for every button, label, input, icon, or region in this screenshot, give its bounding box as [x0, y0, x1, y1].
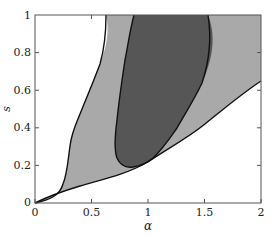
- x-tick-label: 1: [145, 206, 152, 219]
- x-axis-label: α: [144, 219, 152, 233]
- y-tick-label: 0.4: [14, 121, 32, 134]
- y-tick-label: 0.2: [14, 159, 32, 172]
- chart: 0 0.5 1 1.5 2 0 0.2 0.4 0.6 0.8 1 α s: [0, 0, 271, 235]
- x-tick-label: 0.5: [83, 206, 101, 219]
- x-tick-label: 2: [258, 206, 265, 219]
- y-axis-label: s: [0, 106, 13, 112]
- y-tick-label: 1: [24, 9, 31, 22]
- x-tick-label: 0: [32, 206, 39, 219]
- y-tick-label: 0.8: [14, 46, 32, 59]
- y-tick-label: 0.6: [14, 84, 32, 97]
- y-tick-label: 0: [24, 196, 31, 209]
- x-tick-label: 1.5: [196, 206, 214, 219]
- plot-area: [35, 15, 261, 203]
